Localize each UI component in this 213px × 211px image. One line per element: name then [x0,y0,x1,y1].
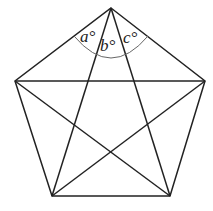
diagonal [52,81,205,196]
diagonal [111,8,170,196]
angle-label-a: a° [80,27,96,46]
pentagon-diagram: a° b° c° [0,0,213,211]
pentagon-svg: a° b° c° [0,0,213,211]
angle-label-b: b° [100,36,116,55]
diagonal [15,81,170,196]
angle-label-c: c° [123,28,138,47]
